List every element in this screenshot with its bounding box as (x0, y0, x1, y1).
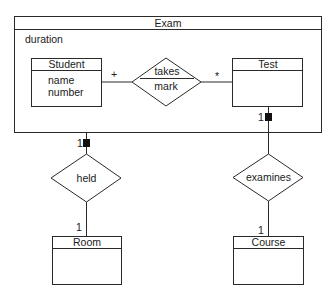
held-multiplicity-bottom: 1 (76, 221, 82, 233)
examines-multiplicity-bottom: 1 (258, 224, 264, 236)
examines-multiplicity-top: 1 (258, 111, 264, 123)
held-label: held (77, 172, 97, 184)
examines-label: examines (246, 171, 291, 183)
student-attribute-name: name (48, 74, 74, 86)
student-attribute-number: number (48, 86, 84, 98)
takes-multiplicity-right: * (215, 70, 219, 82)
takes-label: takes (154, 65, 179, 77)
exam-title: Exam (155, 17, 182, 29)
held-relationship: 1 held 1 (51, 133, 121, 237)
room-class: Room (53, 236, 122, 285)
exam-attribute-duration: duration (25, 33, 63, 45)
course-title: Course (252, 236, 286, 248)
diagram-canvas: Exam duration Student name number takes … (0, 0, 332, 299)
test-class: Test (233, 58, 303, 107)
room-title: Room (73, 236, 101, 248)
test-title: Test (258, 58, 277, 70)
composition-square-icon (265, 113, 272, 121)
composition-square-icon (83, 139, 90, 147)
student-title: Student (48, 58, 84, 70)
course-class: Course (234, 236, 304, 285)
student-class: Student name number (32, 58, 102, 107)
takes-multiplicity-left: + (111, 68, 117, 80)
takes-attribute-mark: mark (154, 80, 178, 92)
held-multiplicity-top: 1 (77, 137, 83, 149)
